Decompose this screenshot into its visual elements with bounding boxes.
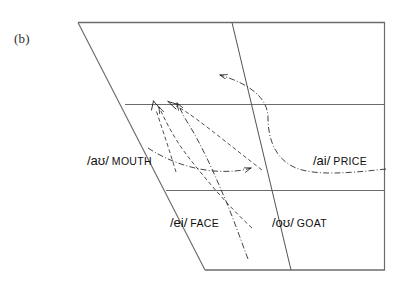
quadrilateral-frame xyxy=(78,23,385,271)
central-diagonal-divider xyxy=(232,23,291,271)
vowel-phoneme-goat: /oʊ/ xyxy=(272,215,294,230)
face-trajectory-path xyxy=(159,107,252,228)
panel-label: (b) xyxy=(14,31,30,47)
vowel-keyword-price: PRICE xyxy=(333,155,367,167)
mouth-trajectory xyxy=(148,148,251,171)
vowel-keyword-goat: GOAT xyxy=(297,217,327,229)
vowel-phoneme-mouth: /aʊ/ xyxy=(87,153,109,168)
frame-left-edge xyxy=(78,23,205,271)
vowel-phoneme-price: /ai/ xyxy=(313,153,330,168)
left-vertical-trajectory xyxy=(152,101,177,172)
vowel-keyword-face: FACE xyxy=(190,217,219,229)
mouth-trajectory-path xyxy=(148,148,251,171)
left-vertical-arrowhead xyxy=(152,101,160,110)
vowel-label-price: /ai/PRICE xyxy=(313,152,367,168)
vowel-diagram-figure: (b) /aʊ/MOUTH /ai/PRICE /ei/FACE /oʊ/GOA… xyxy=(0,0,403,285)
left-vertical-path xyxy=(156,110,176,172)
frame-dividers xyxy=(125,23,385,271)
secondary-upleft-arrowhead xyxy=(168,102,178,110)
vowel-keyword-mouth: MOUTH xyxy=(112,155,152,167)
vowel-phoneme-face: /ei/ xyxy=(170,215,187,230)
secondary-upleft-path xyxy=(176,106,262,170)
vowel-label-goat: /oʊ/GOAT xyxy=(272,214,327,230)
vowel-label-mouth: /aʊ/MOUTH xyxy=(87,152,152,168)
vowel-label-face: /ei/FACE xyxy=(170,214,219,230)
face-trajectory xyxy=(159,107,252,228)
vowel-quadrilateral-svg xyxy=(0,0,403,285)
